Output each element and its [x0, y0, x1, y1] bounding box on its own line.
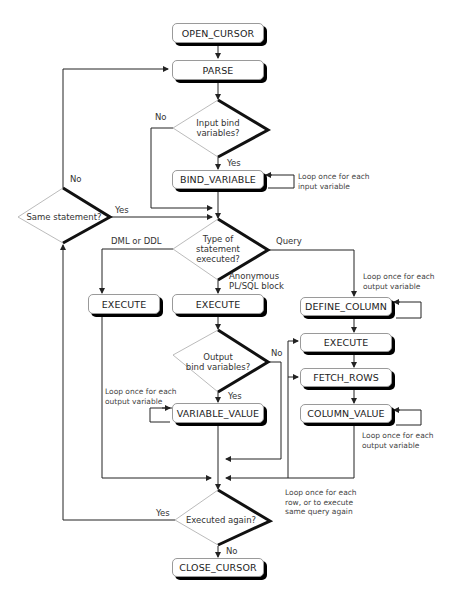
edge-label-same-yes: Yes	[115, 205, 129, 215]
node-fetch-rows: FETCH_ROWS	[300, 368, 392, 387]
node-define-column: DEFINE_COLUMN	[300, 297, 392, 316]
edge-label-dml-ddl: DML or DDL	[111, 236, 162, 246]
decision-same-statement-label: Same statement?	[18, 212, 110, 222]
note-column-loop: Loop once for each output variable	[362, 431, 434, 450]
edge-label-anonymous-plsql: Anonymous PL/SQL block	[229, 272, 284, 291]
node-open-cursor: OPEN_CURSOR	[172, 23, 264, 43]
edge-label-input-yes: Yes	[227, 158, 241, 168]
note-row-loop: Loop once for each row, or to execute sa…	[285, 488, 357, 517]
edge-label-same-no: No	[70, 174, 82, 184]
note-define-loop: Loop once for each output variable	[363, 272, 435, 291]
edge-label-output-yes: Yes	[228, 391, 242, 401]
node-bind-variable: BIND_VARIABLE	[172, 170, 264, 189]
edge-label-input-no: No	[155, 112, 167, 122]
decision-executed-again-label: Executed again?	[176, 515, 266, 525]
node-execute-dml: EXECUTE	[88, 294, 160, 314]
edge-label-query: Query	[276, 236, 302, 246]
node-parse: PARSE	[172, 60, 264, 80]
note-bind-loop: Loop once for each input variable	[298, 172, 370, 191]
flowchart: OPEN_CURSOR PARSE BIND_VARIABLE EXECUTE …	[0, 0, 463, 607]
edge-label-again-yes: Yes	[156, 508, 170, 518]
node-variable-value: VARIABLE_VALUE	[172, 403, 264, 423]
node-execute-plsql: EXECUTE	[172, 294, 264, 314]
note-variable-loop: Loop once for each output variable	[105, 387, 177, 406]
node-close-cursor: CLOSE_CURSOR	[172, 558, 264, 577]
decision-statement-type-label: Type of statement executed?	[178, 234, 258, 264]
decision-input-bind-label: Input bind variables?	[178, 118, 258, 138]
node-execute-query: EXECUTE	[300, 333, 392, 352]
decision-output-bind-label: Output bind variables?	[168, 352, 268, 372]
edge-label-again-no: No	[226, 546, 238, 556]
edge-label-output-no: No	[271, 348, 283, 358]
node-column-value: COLUMN_VALUE	[300, 404, 392, 423]
